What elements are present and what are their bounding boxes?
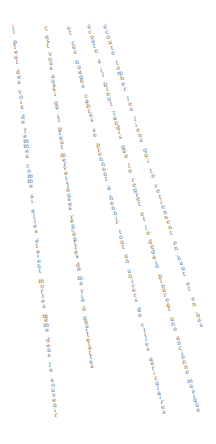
poem-letter: s [130, 106, 134, 113]
poem-letter: t [183, 270, 186, 276]
poem-line-5: écoute tomber les liens qui te retiennen… [0, 0, 216, 444]
poem-letter: s [199, 322, 203, 329]
poem-letter: t [188, 286, 191, 292]
poem-letter: e [151, 173, 155, 180]
poem-letter: s [139, 137, 143, 144]
poem-letter: i [147, 157, 150, 163]
poem-letter: n [174, 245, 179, 252]
poem-letter: e [111, 49, 115, 56]
poem-letter: r [123, 85, 127, 92]
poem-letter: n [192, 301, 197, 308]
calligram-poem: il pleut des voix de femmes comme si ell… [0, 0, 216, 444]
poem-letter: t [170, 229, 173, 235]
